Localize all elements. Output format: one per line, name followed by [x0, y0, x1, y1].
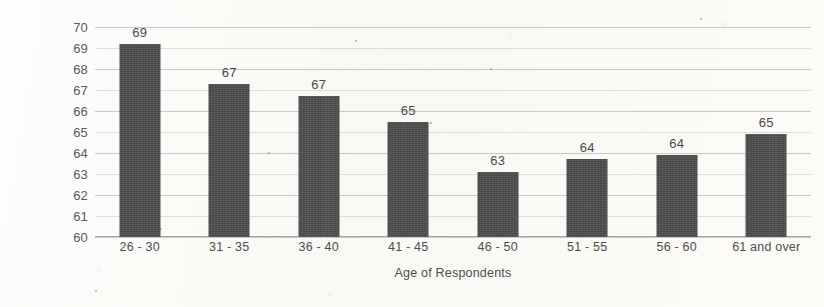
- bar: [746, 134, 787, 237]
- bar-value-label: 69: [132, 25, 147, 40]
- bar-group: 67: [185, 27, 275, 237]
- paper-speck: [490, 68, 492, 70]
- bar-group: 65: [722, 27, 812, 237]
- y-tick-label: 66: [73, 104, 88, 119]
- x-axis-tick-labels: 26 - 3031 - 3536 - 4041 - 4546 - 5051 - …: [95, 240, 811, 262]
- bar-value-label: 64: [669, 136, 684, 151]
- bar-group: 65: [364, 27, 454, 237]
- bar-value-label: 65: [759, 115, 774, 130]
- bar-value-label: 67: [222, 65, 237, 80]
- y-tick-label: 64: [73, 146, 88, 161]
- bar: [388, 122, 429, 238]
- paper-speck: [700, 18, 702, 20]
- bar: [567, 159, 608, 237]
- x-tick-label: 46 - 50: [478, 240, 518, 254]
- x-tick-label: 56 - 60: [657, 240, 697, 254]
- x-tick-label: 31 - 35: [209, 240, 249, 254]
- bar-group: 63: [453, 27, 543, 237]
- paper-speck: [585, 206, 587, 208]
- bar-value-label: 63: [490, 153, 505, 168]
- y-tick-label: 62: [73, 188, 88, 203]
- bar: [477, 172, 518, 237]
- y-axis-tick-labels: 7069686766656463626160: [52, 0, 88, 307]
- y-tick-label: 69: [73, 41, 88, 56]
- bar-value-label: 64: [580, 140, 595, 155]
- gridline: [95, 237, 811, 238]
- paper-speck: [160, 228, 162, 230]
- paper-speck: [268, 152, 270, 154]
- paper-speck: [355, 40, 357, 42]
- y-tick-label: 63: [73, 167, 88, 182]
- y-tick-label: 65: [73, 125, 88, 140]
- plot-area: 6967676563646465: [95, 27, 811, 237]
- y-tick-label: 60: [73, 230, 88, 245]
- x-tick-label: 61 and over: [732, 240, 800, 254]
- bar-group: 64: [543, 27, 633, 237]
- x-tick-label: 41 - 45: [388, 240, 428, 254]
- x-tick-label: 51 - 55: [567, 240, 607, 254]
- y-tick-label: 68: [73, 62, 88, 77]
- bar-value-label: 67: [311, 77, 326, 92]
- y-tick-label: 61: [73, 209, 88, 224]
- bar: [656, 155, 697, 237]
- bar: [298, 96, 339, 237]
- bar-value-label: 65: [401, 103, 416, 118]
- bar: [209, 84, 250, 237]
- paper-speck: [95, 290, 97, 292]
- y-tick-label: 67: [73, 83, 88, 98]
- bar-group: 67: [274, 27, 364, 237]
- bar-group: 64: [632, 27, 722, 237]
- bar-group: 69: [95, 27, 185, 237]
- x-tick-label: 36 - 40: [299, 240, 339, 254]
- y-tick-label: 70: [73, 20, 88, 35]
- x-tick-label: 26 - 30: [120, 240, 160, 254]
- paper-speck: [430, 122, 432, 124]
- x-axis-title: Age of Respondents: [95, 266, 811, 280]
- bar: [119, 44, 160, 237]
